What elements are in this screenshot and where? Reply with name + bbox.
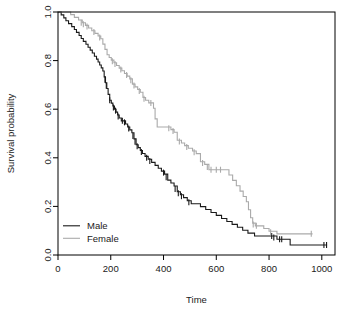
x-tick-label: 1000 [311, 263, 332, 274]
x-tick-label: 200 [103, 263, 119, 274]
x-axis-label: Time [186, 294, 207, 305]
x-tick-label: 800 [261, 263, 277, 274]
y-tick-label: 0.2 [42, 200, 53, 213]
y-axis-label: Survival probability [5, 93, 16, 173]
x-tick-label: 400 [156, 263, 172, 274]
y-tick-label: 0.4 [42, 151, 53, 164]
y-tick-label: 1.0 [42, 5, 53, 18]
y-tick-label: 0.8 [42, 54, 53, 67]
survival-plot-container: 02004006008001000 0.00.20.40.60.81.0 Tim… [0, 0, 348, 319]
kaplan-meier-chart: 02004006008001000 0.00.20.40.60.81.0 Tim… [0, 0, 348, 319]
y-tick-label: 0.6 [42, 103, 53, 116]
y-tick-label: 0.0 [42, 248, 53, 261]
x-tick-label: 0 [55, 263, 60, 274]
legend-label-male: Male [87, 220, 108, 231]
legend-label-female: Female [87, 233, 119, 244]
x-tick-label: 600 [208, 263, 224, 274]
